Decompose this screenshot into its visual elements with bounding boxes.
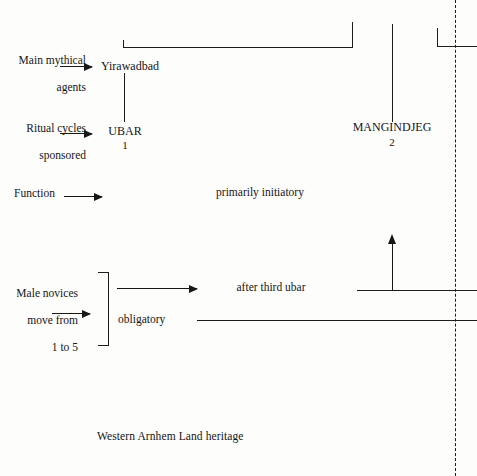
figure-caption: Western Arnhem Land heritage [97,430,244,444]
arrow-up-to-mangindjeg [392,243,393,290]
node-yirawadbad: Yirawadbad [95,59,165,73]
row-label-line2: agents [57,81,86,93]
row-label-line3: 1 to 5 [52,341,78,353]
connector-to-mangindjeg [392,24,393,122]
node-mangindjeg: MANGINDJEG [337,120,447,134]
rail-after-third-ubar [357,290,477,291]
node-mangindjeg-number: 2 [337,136,447,149]
annotation-primarily-initiatory: primarily initiatory [200,186,320,200]
arrow-ritual-cycles-sponsored [60,133,92,134]
connector-mangindjeg-top-stub [352,22,353,48]
row-label-main-mythical-agents: Main mythical agents [0,40,86,108]
figure-canvas: Main mythical agents Yirawadbad Ritual c… [0,0,477,476]
row-label-ritual-cycles-sponsored: Ritual cycles sponsored [0,108,86,176]
row-label-line2: sponsored [39,149,86,161]
rail-obligatory [197,320,477,321]
arrow-male-novices [52,313,90,314]
connector-yirawadbad-to-ubar [124,73,125,122]
grouping-bracket [98,272,109,346]
row-label-line1: Main mythical [19,54,86,66]
arrow-after-third-ubar [117,288,197,289]
annotation-obligatory: obligatory [118,313,198,327]
boundary-bracket-horizontal [437,46,477,47]
row-label-line1: Ritual cycles [26,122,86,134]
row-label-line2: move from [27,314,78,326]
row-label-male-novices: Male novices move from 1 to 5 [0,273,78,368]
row-label-line1: Male novices [16,287,78,299]
node-ubar-number: 1 [97,139,153,152]
annotation-after-third-ubar: after third ubar [216,281,326,295]
arrow-main-mythical-agents [60,66,92,67]
boundary-bracket-vertical [437,28,438,47]
dashed-boundary-line [455,0,456,476]
arrow-function [64,196,102,197]
row-label-function: Function [0,187,76,201]
connector-top-horizontal [123,47,353,48]
node-ubar: UBAR [97,124,153,138]
